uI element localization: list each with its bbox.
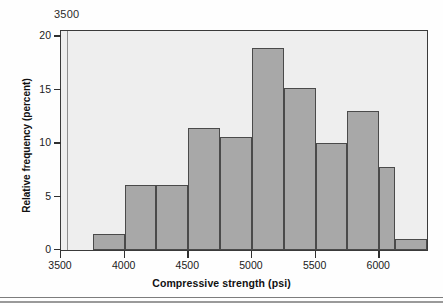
histogram-bar [220,137,252,250]
bars-layer [61,31,427,250]
x-tick-label: 5000 [221,259,281,271]
histogram-bar [188,128,220,250]
histogram-bar [379,167,395,250]
y-tick-mark [54,196,61,197]
histogram-bar [252,48,284,250]
x-tick-mark [187,251,188,258]
x-tick-label: 5500 [285,259,345,271]
x-tick-label: 4000 [94,259,154,271]
y-tick-mark [54,142,61,143]
y-tick-label: 10 [11,136,51,148]
y-tick-label: 5 [11,190,51,202]
y-tick-label: 20 [11,29,51,41]
x-tick-label: 4500 [157,259,217,271]
x-tick-label: 3500 [30,259,90,271]
histogram-bar [156,185,188,250]
histogram-bar [125,185,157,250]
y-tick-mark [54,89,61,90]
plot-area [60,30,428,251]
histogram-bar [316,143,348,250]
y-tick-mark [54,35,61,36]
y-tick-label: 0 [11,243,51,255]
histogram-bar [347,111,379,250]
x-tick-mark [315,251,316,258]
x-tick-mark [378,251,379,258]
histogram-bar [395,239,427,250]
histogram-bar [93,234,125,250]
x-tick-label: 6000 [348,259,408,271]
y-tick-label: 15 [11,83,51,95]
x-tick-mark [60,251,61,258]
histogram-bar [284,88,316,250]
x-tick-mark [124,251,125,258]
x-axis-title: Compressive strength (psi) [0,277,443,289]
x-tick-mark [251,251,252,258]
histogram-figure: 3500 Relative frequency (percent) 051015… [0,0,443,306]
stray-annotation-label: 3500 [54,8,79,20]
page-rule-bottom [0,301,443,303]
page-rule-top [0,297,443,298]
